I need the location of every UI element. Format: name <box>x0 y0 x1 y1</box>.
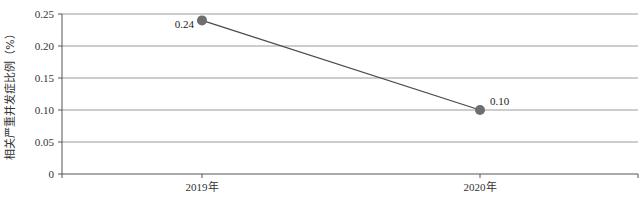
gridlines <box>62 14 638 142</box>
x-axis-ticks: 2019年2020年 <box>186 174 497 193</box>
data-label: 0.24 <box>175 18 195 30</box>
data-label: 0.10 <box>490 95 510 107</box>
y-axis-ticks: 00.050.100.150.200.25 <box>35 8 62 180</box>
line-chart: 00.050.100.150.200.25 2019年2020年 0.240.1… <box>0 0 643 198</box>
data-point-marker <box>197 15 207 25</box>
x-tick-label: 2019年 <box>186 180 219 193</box>
y-tick-label: 0.20 <box>35 40 55 52</box>
series-line <box>202 20 480 110</box>
data-point-marker <box>475 105 485 115</box>
y-axis-label: 相关严重并发症比例（%） <box>3 28 17 159</box>
data-series: 0.240.10 <box>175 15 510 115</box>
axes <box>62 14 638 178</box>
y-tick-label: 0.25 <box>35 8 55 20</box>
x-tick-label: 2020年 <box>464 180 497 193</box>
y-tick-label: 0 <box>49 168 55 180</box>
y-tick-label: 0.10 <box>35 104 55 116</box>
y-tick-label: 0.15 <box>35 72 55 84</box>
y-tick-label: 0.05 <box>35 136 55 148</box>
